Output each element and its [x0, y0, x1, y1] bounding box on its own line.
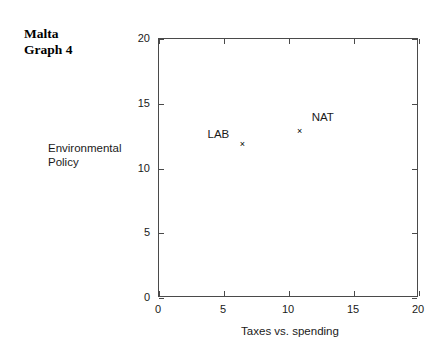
x-axis-tick-label: 0 — [155, 303, 161, 315]
x-axis-tick — [354, 291, 355, 296]
y-axis-label: Environmental Policy — [48, 141, 122, 169]
data-point-marker: × — [297, 127, 302, 136]
x-axis-tick-label: 5 — [220, 303, 226, 315]
x-axis-tick-label: 15 — [347, 303, 359, 315]
y-axis-tick-right — [412, 169, 417, 170]
plot-frame — [158, 38, 418, 297]
y-axis-tick-label: 10 — [120, 162, 150, 174]
y-axis-tick-label: 15 — [120, 97, 150, 109]
y-axis-tick-right — [412, 233, 417, 234]
y-axis-tick — [159, 298, 164, 299]
y-axis-tick — [159, 233, 164, 234]
y-axis-tick-label: 0 — [120, 291, 150, 303]
y-axis-label-line-1: Environmental — [48, 141, 122, 155]
y-axis-tick — [159, 39, 164, 40]
y-axis-tick — [159, 169, 164, 170]
x-axis-tick-label: 20 — [412, 303, 424, 315]
x-axis-tick-top — [224, 39, 225, 44]
y-axis-tick — [159, 104, 164, 105]
chart-title: Malta Graph 4 — [24, 26, 72, 58]
y-axis-tick-label: 20 — [120, 32, 150, 44]
x-axis-tick-top — [354, 39, 355, 44]
y-axis-tick-right — [412, 104, 417, 105]
chart-canvas: Malta Graph 4 Environmental Policy Taxes… — [0, 0, 439, 360]
x-axis-tick — [289, 291, 290, 296]
data-point-label: LAB — [208, 128, 230, 140]
data-point-label: NAT — [312, 111, 334, 123]
x-axis-tick-top — [419, 39, 420, 44]
plot-area — [159, 39, 417, 296]
x-axis-tick-label: 10 — [282, 303, 294, 315]
x-axis-tick — [224, 291, 225, 296]
x-axis-tick-top — [289, 39, 290, 44]
x-axis-tick — [159, 291, 160, 296]
x-axis-label: Taxes vs. spending — [241, 325, 339, 337]
y-axis-tick-right — [412, 39, 417, 40]
y-axis-tick-label: 5 — [120, 226, 150, 238]
y-axis-label-line-2: Policy — [48, 155, 122, 169]
data-point-marker: × — [240, 139, 245, 148]
x-axis-tick — [419, 291, 420, 296]
y-axis-tick-right — [412, 298, 417, 299]
chart-title-line-1: Malta — [24, 26, 72, 42]
chart-title-line-2: Graph 4 — [24, 42, 72, 58]
